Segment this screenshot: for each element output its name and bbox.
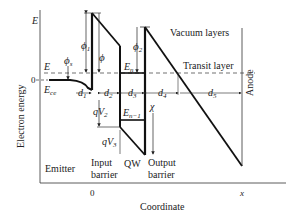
- qw-label: QW: [124, 158, 141, 169]
- qV2-label: qV2: [93, 106, 108, 119]
- phi-1-label: ϕ1: [81, 39, 90, 53]
- E-ce-label: Ece: [43, 84, 56, 97]
- x-tick-zero: 0: [90, 188, 95, 198]
- vacuum-layers-label: Vacuum layers: [170, 27, 229, 38]
- E-left-label: E: [43, 61, 50, 72]
- transit-layer-label: Transit layer: [183, 60, 234, 71]
- qV3-label: qV3: [102, 136, 117, 149]
- d4-label: d4: [158, 87, 167, 100]
- output-barrier-label-1: Output: [148, 157, 176, 168]
- En-label: En: [123, 61, 134, 74]
- input-barrier-label-2: barrier: [91, 169, 118, 180]
- emitter-label: Emitter: [45, 163, 76, 174]
- phi-s-label: ϕs: [64, 54, 73, 68]
- d5-label: d5: [208, 87, 217, 100]
- energy-band-diagram: E 0 Electron energy 0 x Coordinate E Ece…: [0, 0, 300, 216]
- input-barrier-slope: [92, 13, 120, 46]
- d2-label: d2: [104, 87, 113, 100]
- d3-label: d3: [128, 87, 137, 100]
- anode-label: Anode: [244, 69, 255, 96]
- y-tick-zero: 0: [31, 75, 36, 85]
- x-tick-end: x: [239, 188, 244, 198]
- En-1-label: En−1: [122, 107, 141, 120]
- input-barrier-label-1: Input: [91, 157, 112, 168]
- qw-bottom-slope: [120, 127, 145, 155]
- d1-label: d1: [78, 87, 87, 100]
- y-axis-label: Electron energy: [15, 85, 26, 148]
- output-barrier-label-2: barrier: [148, 169, 175, 180]
- phi-2-label: ϕ2: [133, 40, 143, 54]
- chi-label: χ: [149, 101, 155, 112]
- x-axis-label: Coordinate: [140, 201, 185, 212]
- y-tick-E: E: [31, 15, 38, 26]
- phi-label: ϕ: [99, 51, 105, 63]
